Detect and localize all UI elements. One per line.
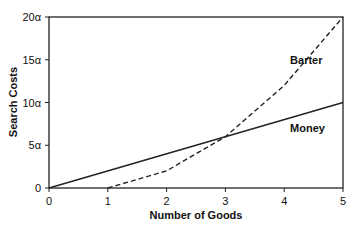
x-tick-label: 1 bbox=[105, 195, 111, 207]
y-tick-label: 5α bbox=[29, 139, 42, 151]
x-tick-label: 3 bbox=[222, 195, 228, 207]
y-tick-label: 20α bbox=[22, 11, 41, 23]
x-axis-label: Number of Goods bbox=[150, 209, 243, 221]
y-axis-label: Search Costs bbox=[7, 67, 19, 137]
y-tick-label: 10α bbox=[22, 97, 41, 109]
series-barter bbox=[108, 17, 343, 188]
search-costs-chart: 01234505α10α15α20αBarterMoney Number of … bbox=[0, 0, 354, 230]
plot-frame bbox=[49, 17, 343, 188]
y-tick-label: 0 bbox=[35, 182, 41, 194]
series-money bbox=[49, 103, 343, 189]
y-tick-label: 15α bbox=[22, 54, 41, 66]
annotation-barter: Barter bbox=[290, 54, 323, 66]
x-tick-label: 0 bbox=[46, 195, 52, 207]
x-tick-label: 4 bbox=[281, 195, 287, 207]
x-tick-label: 2 bbox=[164, 195, 170, 207]
x-tick-label: 5 bbox=[340, 195, 346, 207]
plot-area: 01234505α10α15α20αBarterMoney bbox=[22, 11, 346, 207]
annotation-money: Money bbox=[290, 122, 326, 134]
